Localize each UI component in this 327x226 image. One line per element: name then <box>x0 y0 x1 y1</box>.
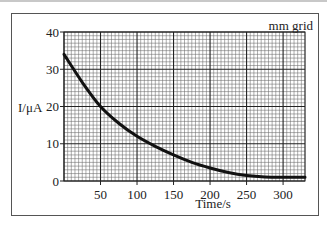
y-tick-label: 10 <box>46 136 59 151</box>
x-axis-label: Time/s <box>195 196 231 211</box>
current-time-chart: 01020304050100150200250300 mm grid I/μA … <box>0 0 327 226</box>
y-axis-label: I/μA <box>18 100 43 115</box>
x-tick-label: 250 <box>237 187 257 202</box>
y-tick-label: 0 <box>53 174 60 189</box>
y-tick-label: 30 <box>46 62 59 77</box>
x-tick-label: 150 <box>164 187 184 202</box>
x-tick-label: 100 <box>127 187 147 202</box>
x-tick-label: 300 <box>273 187 293 202</box>
y-tick-label: 20 <box>46 99 59 114</box>
grid-annotation: mm grid <box>269 18 314 33</box>
x-tick-label: 50 <box>94 187 107 202</box>
y-tick-label: 40 <box>46 25 59 40</box>
